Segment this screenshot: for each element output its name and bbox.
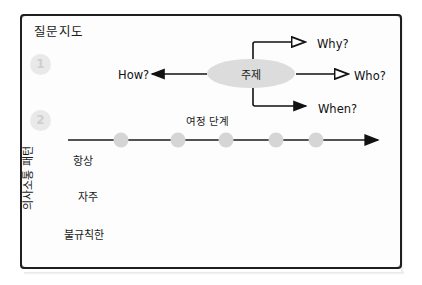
question-label-who: Who? <box>354 69 386 83</box>
topic-label: 주제 <box>207 66 295 82</box>
frequency-label-often: 자주 <box>78 188 98 204</box>
question-label-why: Why? <box>317 37 349 51</box>
frequency-label-always: 항상 <box>73 152 93 168</box>
question-label-how: How? <box>118 68 149 82</box>
section-badge-1: 1 <box>30 54 51 75</box>
section-badge-2: 2 <box>30 110 51 131</box>
page-title: 질문지도 <box>34 21 83 40</box>
question-label-when: When? <box>318 102 357 116</box>
journey-stage-label: 여정 단계 <box>186 113 229 128</box>
frame-shadow-bottom <box>24 272 404 275</box>
vertical-axis-label: 의사소통 패턴 <box>19 135 35 221</box>
frequency-label-irregular: 불규칙한 <box>64 226 104 242</box>
whiteboard-canvas: 질문지도 1 2 의사소통 패턴 주제 How? Why? Who? When?… <box>0 0 422 285</box>
